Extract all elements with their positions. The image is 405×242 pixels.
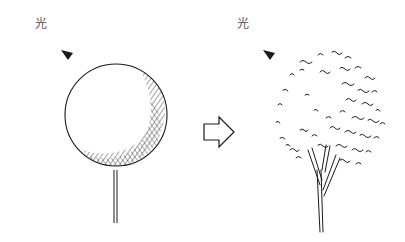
light-direction-icon-right [263, 50, 275, 60]
light-direction-icon-left [61, 50, 73, 60]
leafy-tree [276, 51, 385, 232]
arrow-right-icon[interactable] [204, 117, 234, 147]
sphere-tree [65, 64, 167, 223]
tree-diagram [0, 0, 405, 242]
